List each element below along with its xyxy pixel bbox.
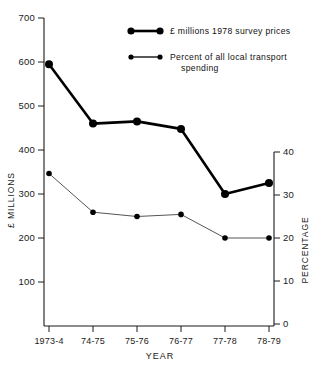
- right-tick-label-30: 30: [283, 189, 294, 200]
- data-point-percentage-5: [266, 235, 272, 241]
- x-axis-ticks: 1973-4 74-75 75-76 76-77 77-78 78-79: [34, 326, 281, 346]
- data-point-pounds-0: [45, 60, 53, 68]
- series-line-percentage: [49, 174, 269, 239]
- x-tick-label-4: 77-78: [213, 336, 237, 346]
- legend-label-pounds: £ millions 1978 survey prices: [170, 26, 290, 36]
- right-tick-label-10: 10: [283, 275, 294, 286]
- right-axis-title: PERCENTAGE: [300, 217, 310, 284]
- data-point-pounds-4: [221, 190, 229, 198]
- legend-label-percentage-line2: spending: [181, 63, 219, 73]
- x-tick-label-0: 1973-4: [34, 336, 63, 346]
- data-point-pounds-3: [177, 125, 185, 133]
- left-tick-label-600: 600: [19, 56, 35, 67]
- left-tick-label-700: 700: [19, 12, 35, 23]
- left-tick-label-400: 400: [19, 144, 35, 155]
- x-tick-label-2: 75-76: [125, 336, 149, 346]
- data-point-percentage-3: [178, 212, 184, 218]
- right-tick-label-0: 0: [283, 318, 288, 329]
- left-tick-label-100: 100: [19, 276, 35, 287]
- data-point-pounds-5: [265, 179, 273, 187]
- legend-item-percentage: Percent of all local transport spending: [128, 52, 287, 73]
- left-tick-label-200: 200: [19, 232, 35, 243]
- legend-marker-percentage-start: [128, 54, 133, 59]
- x-tick-label-1: 74-75: [81, 336, 105, 346]
- series-line-pounds: [49, 64, 269, 194]
- line-chart: 700 600 500 400 300 200 100 £ MILLIONS 4…: [0, 0, 320, 367]
- x-tick-label-5: 78-79: [257, 336, 281, 346]
- legend: £ millions 1978 survey prices Percent of…: [127, 26, 290, 73]
- legend-marker-percentage-end: [157, 54, 162, 59]
- legend-label-percentage-line1: Percent of all local transport: [170, 52, 287, 62]
- data-point-percentage-0: [46, 171, 52, 177]
- data-point-percentage-4: [222, 235, 228, 241]
- right-tick-label-40: 40: [283, 146, 294, 157]
- left-axis-ticks: 700 600 500 400 300 200 100: [19, 12, 44, 287]
- series-points-pounds: [45, 60, 273, 198]
- right-tick-label-20: 20: [283, 232, 294, 243]
- right-axis-ticks: 40 30 20 10 0: [274, 146, 294, 329]
- data-point-pounds-1: [89, 120, 97, 128]
- data-point-percentage-1: [90, 209, 96, 215]
- left-axis-title: £ MILLIONS: [6, 172, 16, 228]
- x-axis-title: YEAR: [146, 351, 175, 361]
- chart-container: 700 600 500 400 300 200 100 £ MILLIONS 4…: [0, 0, 320, 367]
- series-points-percentage: [46, 171, 272, 241]
- legend-marker-pounds-end: [156, 27, 163, 34]
- data-point-percentage-2: [134, 214, 140, 220]
- left-tick-label-500: 500: [19, 100, 35, 111]
- x-tick-label-3: 76-77: [169, 336, 193, 346]
- legend-item-pounds: £ millions 1978 survey prices: [127, 26, 290, 36]
- left-tick-label-300: 300: [19, 188, 35, 199]
- data-point-pounds-2: [133, 117, 141, 125]
- legend-marker-pounds-start: [127, 27, 134, 34]
